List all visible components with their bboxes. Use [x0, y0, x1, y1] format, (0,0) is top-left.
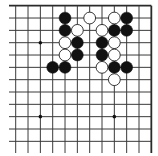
white-stone[interactable]: [96, 24, 108, 36]
white-stone[interactable]: [59, 49, 71, 61]
star-point: [39, 115, 43, 119]
white-stone[interactable]: [108, 49, 120, 61]
black-stone[interactable]: [121, 12, 133, 24]
black-stone[interactable]: [47, 61, 59, 73]
black-stone[interactable]: [59, 24, 71, 36]
black-stone[interactable]: [59, 12, 71, 24]
black-stone[interactable]: [71, 37, 83, 49]
white-stone[interactable]: [59, 37, 71, 49]
black-stone[interactable]: [121, 61, 133, 73]
white-stone[interactable]: [71, 24, 83, 36]
black-stone[interactable]: [96, 37, 108, 49]
go-board[interactable]: [0, 0, 158, 156]
black-stone[interactable]: [108, 61, 120, 73]
black-stone[interactable]: [59, 61, 71, 73]
white-stone[interactable]: [84, 12, 96, 24]
white-stone[interactable]: [96, 61, 108, 73]
white-stone[interactable]: [108, 37, 120, 49]
white-stone[interactable]: [108, 12, 120, 24]
black-stone[interactable]: [108, 24, 120, 36]
black-stone[interactable]: [96, 49, 108, 61]
black-stone[interactable]: [71, 49, 83, 61]
star-point: [113, 115, 117, 119]
black-stone[interactable]: [121, 24, 133, 36]
star-point: [39, 41, 43, 45]
white-stone[interactable]: [108, 74, 120, 86]
